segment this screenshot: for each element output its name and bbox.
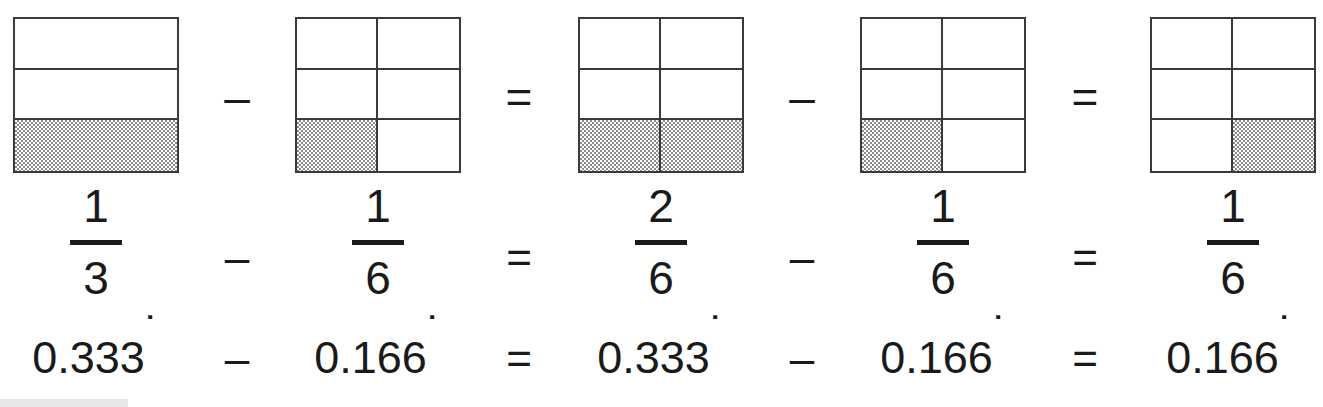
denominator: 6 — [295, 252, 461, 304]
model-cell — [15, 19, 177, 70]
operator-equals-2-decimal: = — [1048, 331, 1122, 387]
model-cell — [297, 70, 378, 121]
numerator: 1 — [295, 180, 461, 232]
recurring-dot-icon: ˙ — [1279, 307, 1294, 358]
area-model-one-sixth — [295, 17, 461, 173]
denominator: 6 — [1150, 252, 1316, 304]
decimals-row: 0.333˙ – 0.166˙ = 0.333˙ – 0.166˙ = 0.16… — [0, 330, 1323, 400]
fraction-1-3: 1 3 — [13, 180, 179, 304]
fraction-1-6-b: 1 6 — [860, 180, 1026, 304]
model-cell-shaded — [15, 120, 177, 171]
model-cell — [378, 70, 459, 121]
operator-minus-1-decimal: – — [200, 331, 274, 387]
model-cell — [661, 19, 742, 70]
recurring-dot-icon: ˙ — [993, 307, 1008, 358]
operator-equals-2-fraction: = — [1048, 236, 1122, 280]
operator-minus-2-decimal: – — [765, 331, 839, 387]
decimal-0333-b: 0.333˙ — [561, 330, 761, 386]
numerator: 2 — [578, 180, 744, 232]
model-cell — [1233, 19, 1314, 70]
model-cell — [15, 70, 177, 121]
model-cell — [1152, 120, 1233, 171]
fractions-row: 1 3 – 1 6 = 2 6 – 1 6 = 1 6 — [0, 180, 1323, 328]
numerator: 1 — [860, 180, 1026, 232]
model-cell — [378, 19, 459, 70]
fraction-1-6-c: 1 6 — [1150, 180, 1316, 304]
area-model-slot-2 — [295, 0, 461, 182]
model-cell — [661, 70, 742, 121]
operator-minus-2-fraction: – — [765, 236, 839, 280]
model-cell — [1152, 70, 1233, 121]
area-model-one-third — [13, 17, 179, 173]
model-cell — [1152, 19, 1233, 70]
operator-equals-1-fraction: = — [482, 236, 556, 280]
area-model-one-sixth-2 — [860, 17, 1026, 173]
decimal-digits: 0.166 — [314, 332, 427, 383]
decimal-0333-a: 0.333˙ — [0, 330, 196, 386]
model-cell-shaded — [580, 120, 661, 171]
model-cell-shaded — [1233, 120, 1314, 171]
fraction-2-6: 2 6 — [578, 180, 744, 304]
model-cell-shaded — [661, 120, 742, 171]
operator-equals-1-decimal: = — [482, 331, 556, 387]
area-model-two-sixths — [578, 17, 744, 173]
decimal-0166-b: 0.166˙ — [844, 330, 1044, 386]
decimal-digits: 0.333 — [32, 332, 145, 383]
model-cell — [862, 70, 943, 121]
denominator: 6 — [578, 252, 744, 304]
fraction-bar — [70, 240, 122, 245]
model-cell — [943, 19, 1024, 70]
numerator: 1 — [13, 180, 179, 232]
model-cell — [1233, 70, 1314, 121]
model-cell — [580, 19, 661, 70]
model-cell — [297, 19, 378, 70]
recurring-dot-icon: ˙ — [710, 307, 725, 358]
scan-edge-artifact — [0, 399, 128, 407]
fraction-bar — [917, 240, 969, 245]
decimal-digits: 0.166 — [880, 332, 993, 383]
area-model-slot-4 — [860, 0, 1026, 182]
operator-equals-1: = — [482, 74, 556, 120]
area-model-one-sixth-right — [1150, 17, 1316, 173]
fraction-bar — [635, 240, 687, 245]
decimal-0166-a: 0.166˙ — [278, 330, 478, 386]
operator-equals-2: = — [1048, 74, 1122, 120]
decimal-digits: 0.333 — [597, 332, 710, 383]
model-cell — [378, 120, 459, 171]
decimal-digits: 0.166 — [1166, 332, 1279, 383]
operator-minus-1: – — [200, 74, 274, 120]
model-cell-shaded — [297, 120, 378, 171]
numerator: 1 — [1150, 180, 1316, 232]
area-models-row: – = – — [0, 0, 1323, 182]
area-model-slot-5 — [1150, 0, 1316, 182]
recurring-dot-icon: ˙ — [145, 307, 160, 358]
operator-minus-2: – — [765, 74, 839, 120]
area-model-slot-3 — [578, 0, 744, 182]
fraction-bar — [352, 240, 404, 245]
model-cell — [580, 70, 661, 121]
fraction-1-6-a: 1 6 — [295, 180, 461, 304]
denominator: 6 — [860, 252, 1026, 304]
model-cell — [862, 19, 943, 70]
fraction-worksheet: – = – — [0, 0, 1323, 407]
operator-minus-1-fraction: – — [200, 236, 274, 280]
fraction-bar — [1207, 240, 1259, 245]
model-cell-shaded — [862, 120, 943, 171]
recurring-dot-icon: ˙ — [427, 307, 442, 358]
model-cell — [943, 120, 1024, 171]
area-model-slot-1 — [13, 0, 179, 182]
decimal-0166-c: 0.166˙ — [1130, 330, 1323, 386]
model-cell — [943, 70, 1024, 121]
denominator: 3 — [13, 252, 179, 304]
